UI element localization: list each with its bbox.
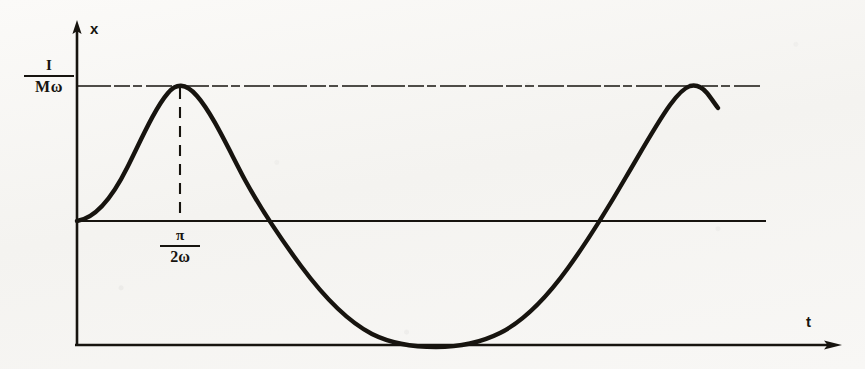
sine-curve	[77, 86, 718, 347]
figure-container: x t I Mω π 2ω	[0, 0, 865, 369]
amplitude-tick-label: I Mω	[24, 58, 74, 95]
amplitude-fraction-bar	[24, 75, 74, 77]
amplitude-denominator: Mω	[24, 78, 74, 95]
quarter-period-numerator: π	[160, 228, 200, 244]
x-axis-label: t	[806, 314, 811, 329]
quarter-period-tick-label: π 2ω	[160, 228, 200, 265]
quarter-period-denominator: 2ω	[160, 248, 200, 265]
quarter-period-fraction-bar	[160, 245, 200, 247]
y-axis-label: x	[90, 21, 98, 36]
plot-canvas	[0, 0, 865, 369]
amplitude-numerator: I	[24, 58, 74, 74]
